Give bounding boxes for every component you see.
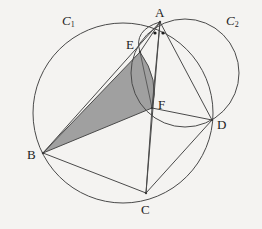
point-label-e: E [126, 38, 134, 51]
vertex-dot-f [151, 107, 153, 109]
circle-label-c2-subscript: 2 [235, 20, 239, 29]
angle-mark-dot-1-icon [153, 31, 156, 34]
geometry-figure: C1 C2 A B C D E F [0, 0, 262, 229]
circle-label-c2-letter: C [226, 13, 235, 28]
circle-label-c1-subscript: 1 [71, 20, 75, 29]
vertex-dot-c [145, 192, 147, 194]
circle-label-c1: C1 [62, 14, 75, 27]
angle-mark-dot-2-icon [161, 31, 164, 34]
point-label-d: D [217, 118, 226, 131]
segment-af [152, 22, 160, 108]
geometry-canvas [0, 0, 262, 229]
vertex-dot-e [139, 51, 141, 53]
vertex-dot-d [211, 119, 213, 121]
point-label-a: A [155, 6, 164, 19]
segment-ad [160, 22, 212, 120]
segment-cf [146, 108, 152, 193]
point-label-b: B [27, 148, 36, 161]
circle-label-c2: C2 [226, 14, 239, 27]
vertex-dot-b [42, 152, 44, 154]
shaded-region-bef [43, 52, 154, 153]
segment-bc [43, 153, 146, 193]
circle-label-c1-letter: C [62, 13, 71, 28]
point-label-f: F [158, 98, 165, 111]
vertex-dot-a [159, 21, 161, 23]
point-label-c: C [141, 203, 150, 216]
